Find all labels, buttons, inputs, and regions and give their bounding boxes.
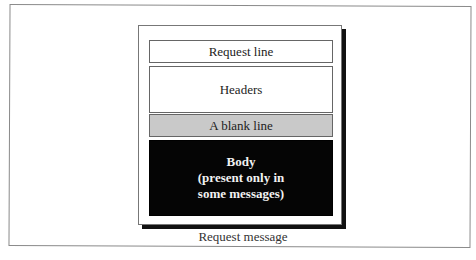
request-line-block: Request line [149,40,333,63]
body-label-line-3: some messages) [198,186,284,202]
headers-label: Headers [220,82,263,98]
body-block: Body (present only in some messages) [149,140,333,216]
request-line-label: Request line [209,44,274,60]
request-message-page: Request line Headers A blank line Body (… [138,25,342,225]
body-label-line-2: (present only in [198,170,284,186]
blank-line-label: A blank line [209,118,273,134]
headers-block: Headers [149,66,333,113]
body-label-line-1: Body [198,154,284,170]
figure-caption: Request message [138,229,348,245]
blank-line-block: A blank line [149,114,333,137]
